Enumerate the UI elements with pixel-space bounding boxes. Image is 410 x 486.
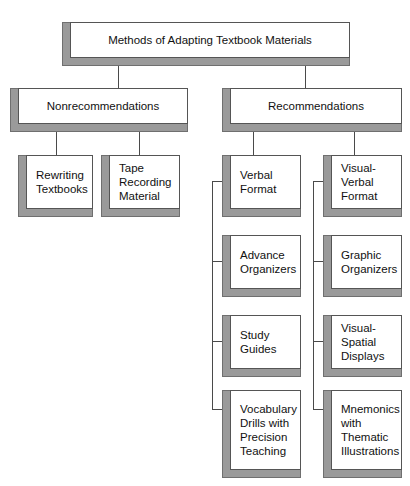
node-label: Graphic Organizers bbox=[332, 248, 401, 276]
box-face: Visual-Verbal Format bbox=[331, 155, 402, 209]
connector-nonrec-to-tape bbox=[139, 130, 140, 156]
node-label: Vocabulary Drills with Precision Teachin… bbox=[231, 402, 301, 458]
connector-visual-verbal-column-spine bbox=[313, 181, 314, 409]
node-label: Methods of Adapting Textbook Materials bbox=[108, 33, 312, 47]
node-label: Rewriting Textbooks bbox=[27, 168, 92, 196]
connector-nonrec-to-rewriting bbox=[56, 130, 57, 156]
node-label: Advance Organizers bbox=[231, 248, 300, 276]
node-label: Visual- Spatial Displays bbox=[332, 321, 388, 363]
box-face: Mnemonics with Thematic Illustrations bbox=[331, 390, 402, 470]
node-verbal-format[interactable]: Verbal Format bbox=[222, 155, 301, 217]
connector-verbal-column-spine bbox=[212, 181, 213, 409]
node-root-methods-of-adapting-textbook-materials[interactable]: Methods of Adapting Textbook Materials bbox=[62, 22, 350, 66]
box-face: Graphic Organizers bbox=[331, 235, 402, 289]
box-face: Methods of Adapting Textbook Materials bbox=[70, 22, 350, 58]
box-face: Tape Recording Material bbox=[109, 155, 180, 209]
box-face: Visual- Spatial Displays bbox=[331, 315, 402, 369]
box-face: Vocabulary Drills with Precision Teachin… bbox=[230, 390, 301, 470]
node-label: Mnemonics with Thematic Illustrations bbox=[332, 402, 402, 458]
node-visual-spatial-displays[interactable]: Visual- Spatial Displays bbox=[323, 315, 402, 377]
box-face: Study Guides bbox=[230, 315, 301, 369]
node-label: Recommendations bbox=[268, 99, 364, 113]
node-label: Study Guides bbox=[231, 328, 280, 356]
box-face: Recommendations bbox=[230, 88, 402, 124]
node-advance-organizers[interactable]: Advance Organizers bbox=[222, 235, 301, 297]
node-label: Nonrecommendations bbox=[47, 99, 160, 113]
flowchart-canvas: Methods of Adapting Textbook Materials N… bbox=[0, 0, 410, 486]
box-face: Advance Organizers bbox=[230, 235, 301, 289]
node-tape-recording-material[interactable]: Tape Recording Material bbox=[101, 155, 180, 217]
node-rewriting-textbooks[interactable]: Rewriting Textbooks bbox=[18, 155, 93, 217]
connector-rec-to-visual-verbal-format bbox=[354, 130, 355, 156]
box-face: Rewriting Textbooks bbox=[26, 155, 93, 209]
node-vocabulary-drills-with-precision-teaching[interactable]: Vocabulary Drills with Precision Teachin… bbox=[222, 390, 301, 478]
node-study-guides[interactable]: Study Guides bbox=[222, 315, 301, 377]
box-face: Nonrecommendations bbox=[18, 88, 188, 124]
node-label: Tape Recording Material bbox=[110, 161, 175, 203]
node-label: Visual-Verbal Format bbox=[332, 161, 401, 203]
node-visual-verbal-format[interactable]: Visual-Verbal Format bbox=[323, 155, 402, 217]
box-face: Verbal Format bbox=[230, 155, 301, 209]
node-graphic-organizers[interactable]: Graphic Organizers bbox=[323, 235, 402, 297]
node-label: Verbal Format bbox=[231, 168, 280, 196]
connector-rec-to-verbal-format bbox=[253, 130, 254, 156]
node-recommendations[interactable]: Recommendations bbox=[222, 88, 402, 132]
node-mnemonics-with-thematic-illustrations[interactable]: Mnemonics with Thematic Illustrations bbox=[323, 390, 402, 478]
node-nonrecommendations[interactable]: Nonrecommendations bbox=[10, 88, 188, 132]
